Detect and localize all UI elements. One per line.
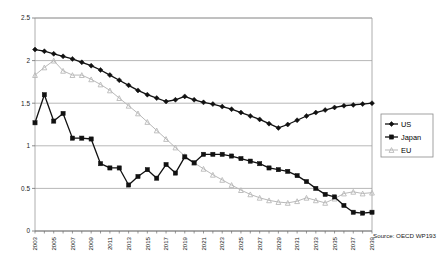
legend-label-japan[interactable]: Japan bbox=[401, 133, 421, 142]
x-tick-label: 2019 bbox=[181, 236, 188, 250]
data-point-marker bbox=[295, 174, 299, 178]
data-point-marker bbox=[33, 121, 37, 125]
data-point-marker bbox=[323, 192, 327, 196]
data-point-marker bbox=[108, 166, 112, 170]
chart-container: 00.511.522.5 200320052007200920112013201… bbox=[0, 0, 441, 275]
data-point-marker bbox=[117, 166, 121, 170]
data-point-marker bbox=[229, 154, 233, 158]
data-point-marker bbox=[42, 93, 46, 97]
chart-legend[interactable]: USJapanEU bbox=[381, 114, 433, 157]
y-tick-label: 2.5 bbox=[21, 14, 30, 21]
y-tick-label: 1 bbox=[26, 142, 30, 149]
x-tick-label: 2027 bbox=[256, 236, 263, 250]
data-point-marker bbox=[70, 136, 74, 140]
data-point-marker bbox=[164, 162, 168, 166]
legend-label-eu[interactable]: EU bbox=[401, 146, 411, 155]
data-point-marker bbox=[173, 171, 177, 175]
x-tick-label: 2035 bbox=[331, 236, 338, 250]
data-point-marker bbox=[248, 159, 252, 163]
x-tick-label: 2033 bbox=[312, 236, 319, 250]
x-tick-label: 2029 bbox=[275, 236, 282, 250]
data-point-marker bbox=[361, 211, 365, 215]
data-point-marker bbox=[332, 195, 336, 199]
data-point-marker bbox=[145, 168, 149, 172]
data-point-marker bbox=[267, 166, 271, 170]
x-tick-label: 2003 bbox=[31, 236, 38, 250]
x-tick-label: 2021 bbox=[200, 236, 207, 250]
data-point-marker bbox=[211, 152, 215, 156]
source-note-text: Source: OECD WP193 bbox=[373, 232, 436, 239]
data-point-marker bbox=[201, 152, 205, 156]
data-point-marker bbox=[314, 186, 318, 190]
x-tick-label: 2031 bbox=[293, 236, 300, 250]
data-point-marker bbox=[183, 155, 187, 159]
x-tick-label: 2011 bbox=[106, 236, 113, 250]
data-point-marker bbox=[89, 137, 93, 141]
y-tick-label: 0.5 bbox=[21, 185, 30, 192]
data-point-marker bbox=[136, 174, 140, 178]
x-tick-label: 2013 bbox=[125, 236, 132, 250]
data-point-marker bbox=[370, 210, 374, 214]
x-tick-label: 2025 bbox=[237, 236, 244, 250]
data-point-marker bbox=[80, 136, 84, 140]
data-point-marker bbox=[239, 156, 243, 160]
source-note: Source: OECD WP193 bbox=[373, 232, 436, 239]
x-tick-label: 2005 bbox=[50, 236, 57, 250]
x-tick-label: 2023 bbox=[218, 236, 225, 250]
data-point-marker bbox=[192, 161, 196, 165]
line-chart: 00.511.522.5 200320052007200920112013201… bbox=[0, 0, 441, 275]
x-tick-label: 2017 bbox=[162, 236, 169, 250]
data-point-marker bbox=[389, 135, 393, 139]
data-point-marker bbox=[127, 183, 131, 187]
data-point-marker bbox=[286, 169, 290, 173]
data-point-marker bbox=[258, 162, 262, 166]
x-tick-label: 2037 bbox=[349, 236, 356, 250]
y-tick-label: 0 bbox=[26, 227, 30, 234]
legend-label-us[interactable]: US bbox=[401, 120, 411, 129]
x-tick-label: 2015 bbox=[144, 236, 151, 250]
data-point-marker bbox=[98, 162, 102, 166]
data-point-marker bbox=[220, 152, 224, 156]
data-point-marker bbox=[342, 203, 346, 207]
data-point-marker bbox=[304, 179, 308, 183]
data-point-marker bbox=[155, 176, 159, 180]
data-point-marker bbox=[276, 168, 280, 172]
x-tick-label: 2009 bbox=[87, 236, 94, 250]
y-tick-label: 2 bbox=[26, 57, 30, 64]
y-tick-label: 1.5 bbox=[21, 100, 30, 107]
x-tick-label: 2007 bbox=[69, 236, 76, 250]
data-point-marker bbox=[52, 119, 56, 123]
data-point-marker bbox=[61, 111, 65, 115]
data-point-marker bbox=[351, 210, 355, 214]
